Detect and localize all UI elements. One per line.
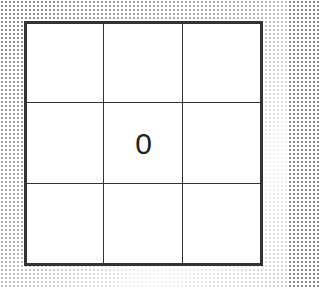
cell-2-1[interactable] (103, 183, 184, 266)
cell-0-1[interactable] (103, 21, 184, 104)
cell-1-2[interactable] (182, 102, 263, 185)
cell-1-1[interactable]: 0 (103, 102, 184, 185)
cell-0-2[interactable] (182, 21, 263, 104)
cell-2-0[interactable] (24, 183, 105, 266)
cell-0-0[interactable] (24, 21, 105, 104)
cell-2-2[interactable] (182, 183, 263, 266)
tic-tac-toe-board: 0 (25, 22, 262, 265)
cell-1-0[interactable] (24, 102, 105, 185)
